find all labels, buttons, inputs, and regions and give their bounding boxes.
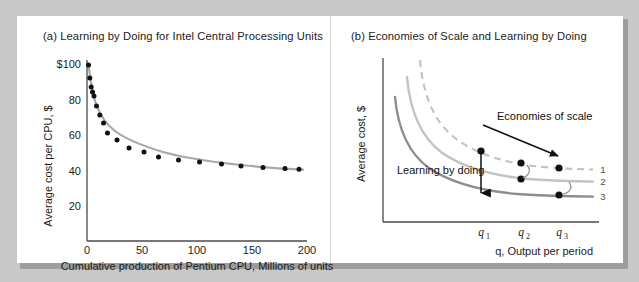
panel-a-plot: $100 80 60 40 20 0 50 100 150 200 Averag… <box>17 16 330 263</box>
panel-b-y-axis-label: Average cost, $ <box>355 106 367 182</box>
panel-b: (b) Economies of Scale and Learning by D… <box>331 16 623 263</box>
panel-b-xtick-q1: q 1 <box>478 226 490 241</box>
panel-a-y-axis-label: Average cost per CPU, $ <box>42 105 54 226</box>
panel-b-xtick-q2: q 2 <box>518 226 530 241</box>
economies-of-scale-arrow <box>483 125 558 156</box>
panel-a-svg: $100 80 60 40 20 0 50 100 150 200 Averag… <box>17 16 330 263</box>
panel-b-xtick-q3-base: q <box>556 226 562 239</box>
panel-b-svg: Economies of scale Learning by doing 1 2… <box>331 16 623 263</box>
panel-b-x-axis-label: q, Output per period <box>495 245 593 257</box>
figure-root: (a) Learning by Doing for Intel Central … <box>0 0 639 282</box>
point-curve3-q3 <box>555 191 562 198</box>
hook-arrow-q2 <box>523 165 529 178</box>
panel-a-ytick-2: 60 <box>69 129 81 141</box>
point-curve1-q3 <box>555 164 562 171</box>
panel-a-x-axis-label: Cumulative production of Pentium CPU, Mi… <box>61 260 334 272</box>
panel-a-xtick-0: 0 <box>84 244 90 256</box>
point-curve2-q2 <box>517 175 524 182</box>
panel-b-xtick-q3: q 3 <box>556 226 568 241</box>
panel-a-ytick-0: $100 <box>57 58 81 70</box>
panel-a-xtick-2: 100 <box>188 244 206 256</box>
point-curve1-q2 <box>517 159 524 166</box>
panel-a-xtick-4: 200 <box>298 244 316 256</box>
panel-b-xtick-q3-sub: 3 <box>564 232 568 241</box>
panel-a-ytick-4: 20 <box>69 200 81 212</box>
panel-b-xtick-q1-base: q <box>478 226 484 239</box>
hook-arrow-q3 <box>562 182 571 195</box>
panel-a-ytick-1: 80 <box>69 94 81 106</box>
panel-b-curve-label-2: 2 <box>600 176 605 187</box>
panel-a: (a) Learning by Doing for Intel Central … <box>17 16 330 263</box>
economies-of-scale-label: Economies of scale <box>497 110 592 122</box>
panel-b-curve-label-3: 3 <box>600 191 605 202</box>
panel-b-xtick-q2-sub: 2 <box>526 232 530 241</box>
panel-b-curve-label-1: 1 <box>600 164 605 175</box>
panel-a-data-points <box>86 63 302 172</box>
panel-b-plot: Economies of scale Learning by doing 1 2… <box>331 16 623 263</box>
panel-b-xtick-q1-sub: 1 <box>486 232 490 241</box>
panel-a-xtick-3: 150 <box>243 244 261 256</box>
panel-a-ytick-3: 40 <box>69 165 81 177</box>
panel-a-xtick-1: 50 <box>136 244 148 256</box>
learning-by-doing-label: Learning by doing <box>397 164 484 176</box>
panel-a-fit-curve <box>89 64 304 170</box>
panel-b-xtick-q2-base: q <box>518 226 524 239</box>
